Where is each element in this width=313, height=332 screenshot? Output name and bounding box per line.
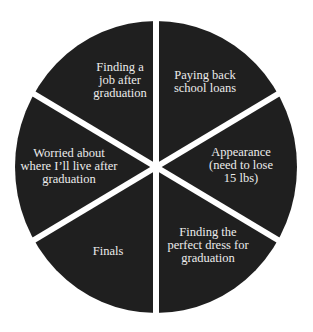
slice-label-job: Finding a job after graduation: [93, 61, 146, 100]
slice-label-school-loans: Paying back school loans: [174, 69, 236, 95]
slice-label-perfect-dress: Finding the perfect dress for graduation: [167, 226, 248, 265]
slice-label-where-to-live: Worried about where I’ll live after grad…: [21, 147, 118, 186]
slice-label-finals: Finals: [93, 245, 124, 258]
slice-label-appearance: Appearance (need to lose 15 lbs): [205, 146, 277, 185]
pie-chart: Paying back school loans Appearance (nee…: [0, 0, 313, 332]
